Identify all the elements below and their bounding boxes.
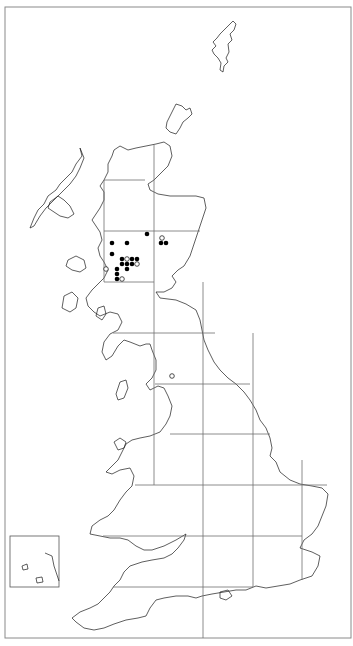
- distribution-map: [0, 0, 353, 646]
- filled-record-dot: [110, 252, 115, 257]
- mull-outline: [66, 256, 86, 272]
- open-record-dot: [135, 262, 140, 267]
- open-record-dot: [120, 277, 125, 282]
- filled-record-dot: [135, 257, 140, 262]
- filled-record-dot: [125, 267, 130, 272]
- filled-record-dot: [164, 241, 169, 246]
- filled-record-dot: [115, 277, 120, 282]
- coastline: [30, 21, 328, 630]
- filled-records: [110, 232, 169, 282]
- arran-outline: [96, 306, 106, 320]
- outer-hebrides-outline: [30, 148, 84, 228]
- shetland-outline: [212, 21, 236, 72]
- inset-island-1: [22, 564, 28, 570]
- filled-record-dot: [120, 262, 125, 267]
- filled-record-dot: [130, 262, 135, 267]
- anglesey-outline: [114, 438, 126, 450]
- open-record-dot: [160, 236, 165, 241]
- filled-record-dot: [110, 241, 115, 246]
- filled-record-dot: [145, 232, 150, 237]
- filled-record-dot: [125, 262, 130, 267]
- map-frame: [5, 7, 351, 638]
- filled-record-dot: [130, 257, 135, 262]
- filled-record-dot: [115, 272, 120, 277]
- inset-box: [10, 536, 59, 587]
- open-record-dot: [125, 257, 130, 262]
- channel-islands-inset: [10, 536, 59, 587]
- mainland-outline: [72, 142, 328, 630]
- inset-coast: [45, 553, 59, 581]
- filled-record-dot: [159, 241, 164, 246]
- orkney-outline: [166, 104, 192, 134]
- isle-of-man-outline: [116, 380, 128, 400]
- skye-outline: [48, 196, 74, 218]
- filled-record-dot: [120, 257, 125, 262]
- islay-outline: [62, 292, 78, 312]
- open-record-dot: [170, 374, 175, 379]
- filled-record-dot: [125, 241, 130, 246]
- filled-record-dot: [115, 267, 120, 272]
- inset-island-2: [36, 577, 43, 583]
- open-record-dot: [104, 267, 109, 272]
- open-records: [104, 236, 175, 379]
